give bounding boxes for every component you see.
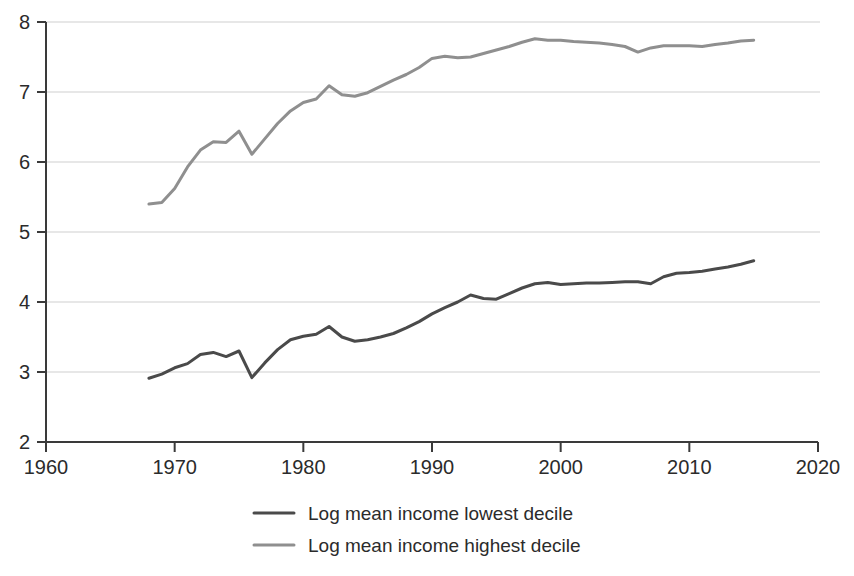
series-line-highest-decile — [149, 39, 754, 204]
y-axis-ticks — [37, 22, 46, 442]
x-axis-tick-labels: 1960197019801990200020102020 — [24, 456, 841, 478]
y-axis-tick-labels: 2345678 — [19, 11, 30, 453]
y-tick-label: 6 — [19, 151, 30, 173]
x-tick-label: 2010 — [667, 456, 712, 478]
y-tick-label: 5 — [19, 221, 30, 243]
x-tick-label: 2000 — [538, 456, 583, 478]
data-series-group — [149, 39, 754, 379]
gridlines — [46, 22, 820, 372]
y-axis: 2345678 — [19, 11, 46, 453]
legend-label-highest-decile: Log mean income highest decile — [308, 535, 581, 556]
x-tick-label: 1990 — [410, 456, 455, 478]
legend-label-lowest-decile: Log mean income lowest decile — [308, 503, 573, 524]
series-line-lowest-decile — [149, 261, 754, 379]
x-axis: 1960197019801990200020102020 — [24, 442, 841, 478]
x-axis-ticks — [46, 442, 818, 452]
y-tick-label: 2 — [19, 431, 30, 453]
x-tick-label: 1960 — [24, 456, 69, 478]
y-tick-label: 4 — [19, 291, 30, 313]
x-tick-label: 1970 — [152, 456, 197, 478]
chart-legend: Log mean income lowest decileLog mean in… — [254, 503, 581, 556]
y-tick-label: 3 — [19, 361, 30, 383]
x-tick-label: 1980 — [281, 456, 326, 478]
chart-figure: 2345678 1960197019801990200020102020 Log… — [0, 0, 854, 576]
line-chart: 2345678 1960197019801990200020102020 Log… — [0, 0, 854, 576]
y-tick-label: 8 — [19, 11, 30, 33]
x-tick-label: 2020 — [796, 456, 841, 478]
y-tick-label: 7 — [19, 81, 30, 103]
